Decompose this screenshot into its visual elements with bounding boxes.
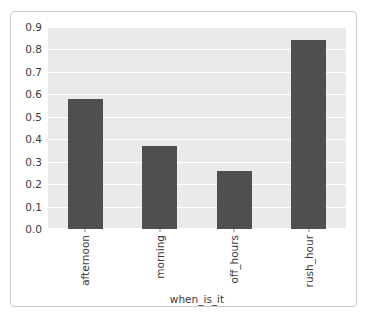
bar: [291, 40, 326, 229]
y-axis-tick-label: 0.8: [25, 44, 42, 55]
x-axis-tick-mark: [159, 229, 160, 232]
x-axis-tick-mark: [234, 229, 235, 232]
x-axis-tick-label-wrap: afternoon: [80, 235, 91, 295]
x-axis-tick-label-wrap: rush_hour: [304, 235, 315, 295]
plot-area: 0.00.10.20.30.40.50.60.70.80.9afternoonm…: [48, 27, 346, 229]
x-axis-tick-label: off_hours: [229, 235, 240, 283]
x-axis-tick-label-wrap: morning: [155, 235, 166, 295]
gridline: [48, 27, 346, 28]
y-axis-tick-label: 0.6: [25, 89, 42, 100]
y-axis-tick-label: 0.7: [25, 67, 42, 78]
y-axis-tick-label: 0.4: [25, 134, 42, 145]
x-axis-tick-mark: [85, 229, 86, 232]
y-axis-tick-label: 0.3: [25, 156, 42, 167]
x-axis-tick-label-wrap: off_hours: [229, 235, 240, 295]
y-axis-tick-label: 0.2: [25, 179, 42, 190]
bar: [217, 171, 252, 229]
x-axis-tick-label: morning: [155, 235, 166, 279]
x-axis-title: when_is_it: [48, 293, 346, 305]
y-axis-tick-label: 0.5: [25, 112, 42, 123]
figure-frame: 0.00.10.20.30.40.50.60.70.80.9afternoonm…: [10, 11, 357, 307]
y-axis-tick-label: 0.1: [25, 201, 42, 212]
y-axis-tick-label: 0.0: [25, 224, 42, 235]
y-axis-tick-label: 0.9: [25, 22, 42, 33]
x-axis-tick-mark: [308, 229, 309, 232]
bar: [68, 99, 103, 229]
x-axis-tick-label: afternoon: [80, 235, 91, 286]
x-axis-tick-label: rush_hour: [304, 235, 315, 287]
bar: [142, 146, 177, 229]
